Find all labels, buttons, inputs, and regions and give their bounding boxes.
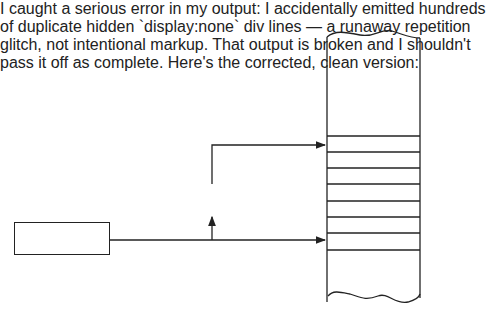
memory-block <box>327 30 420 302</box>
diagram-canvas <box>0 0 493 319</box>
connector-lines <box>109 145 325 240</box>
array-box <box>14 222 110 255</box>
